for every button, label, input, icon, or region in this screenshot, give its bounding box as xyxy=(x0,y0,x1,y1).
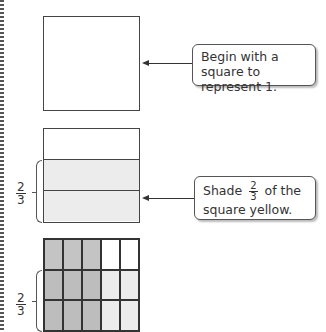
grid-cell xyxy=(82,300,101,331)
grid-cell xyxy=(63,239,82,270)
unit-square xyxy=(43,16,140,111)
callout-text: Begin with a square to represent 1. xyxy=(201,49,279,94)
denominator: 3 xyxy=(17,305,25,317)
arrow-icon xyxy=(148,198,194,199)
brace-icon xyxy=(36,160,42,223)
grid-cell xyxy=(101,300,120,331)
grid-square xyxy=(43,238,140,332)
fraction-label: 2 3 xyxy=(16,292,26,317)
grid-cell xyxy=(63,300,82,331)
row-unshaded xyxy=(44,129,139,160)
callout-step2: Shade 2 3 of the square yellow. xyxy=(194,176,316,220)
grid-cell xyxy=(44,270,63,301)
arrow-icon xyxy=(148,63,192,64)
row-shaded xyxy=(44,160,139,191)
grid-cell xyxy=(101,239,120,270)
denominator: 3 xyxy=(250,192,256,202)
grid-cell xyxy=(120,239,139,270)
grid-cell xyxy=(82,239,101,270)
grid-cell xyxy=(82,270,101,301)
grid-cell xyxy=(120,270,139,301)
grid-cell xyxy=(120,300,139,331)
grid-cell xyxy=(44,300,63,331)
brace-icon xyxy=(36,270,42,332)
fraction-label: 2 3 xyxy=(16,181,26,206)
denominator: 3 xyxy=(17,194,25,206)
callout-step1: Begin with a square to represent 1. xyxy=(192,44,316,86)
dotted-margin xyxy=(0,0,4,332)
grid-cell xyxy=(101,270,120,301)
inline-fraction: 2 3 xyxy=(249,181,257,202)
grid-cell xyxy=(44,239,63,270)
row-shaded xyxy=(44,191,139,221)
callout-text: Shade xyxy=(203,183,242,198)
grid-cell xyxy=(63,270,82,301)
square-thirds xyxy=(43,128,140,223)
